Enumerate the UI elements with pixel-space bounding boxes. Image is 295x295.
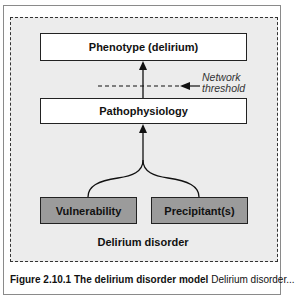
precipitants-node: Precipitant(s): [151, 197, 248, 224]
caption-text: Delirium disorder...: [211, 274, 294, 285]
arrowhead-pathophysiology: [139, 124, 147, 133]
threshold-label-line2: threshold: [202, 83, 245, 94]
arrowhead-phenotype: [139, 61, 147, 70]
pathophysiology-node: Pathophysiology: [40, 98, 247, 124]
vulnerability-node: Vulnerability: [40, 197, 137, 224]
phenotype-label: Phenotype (delirium): [89, 41, 198, 53]
caption-title: Figure 2.10.1 The delirium disorder mode…: [10, 274, 208, 285]
vulnerability-label: Vulnerability: [56, 205, 122, 217]
edge-precipitants-to-pathophysiology: [143, 160, 199, 197]
threshold-pointer-arrowhead: [180, 82, 190, 90]
phenotype-node: Phenotype (delirium): [40, 33, 247, 61]
figure-caption: Figure 2.10.1 The delirium disorder mode…: [10, 274, 295, 285]
delirium-disorder-label: Delirium disorder: [0, 236, 286, 248]
precipitants-label: Precipitant(s): [164, 205, 234, 217]
pathophysiology-label: Pathophysiology: [99, 105, 188, 117]
edge-vulnerability-to-pathophysiology: [88, 160, 143, 197]
network-threshold-label: Network threshold: [202, 72, 245, 94]
